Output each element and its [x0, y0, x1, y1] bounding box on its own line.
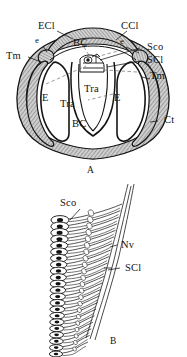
- figure-container: ECl CCl e e Tm Tm Sco SCl BC BC Tra Tra …: [0, 0, 187, 357]
- panel-letter-a: A: [87, 165, 94, 175]
- label-bc-top: BC: [73, 38, 87, 49]
- label-tm-right: Tm: [150, 71, 165, 82]
- label-e-chamber-left: E: [42, 93, 49, 104]
- label-scl: SCl: [147, 55, 163, 66]
- label-bc-bottom: BC: [72, 119, 86, 130]
- scolopidia-chain: [49, 204, 122, 357]
- panel-b-drawing: [0, 178, 187, 357]
- label-tra-left: Tra: [60, 99, 75, 110]
- label-e-right: e: [120, 37, 124, 46]
- label-tra-right: Tra: [84, 84, 99, 95]
- label-b-nv: Nv: [121, 240, 134, 251]
- panel-letter-b: B: [110, 336, 117, 346]
- label-e-left: e: [35, 36, 39, 45]
- label-sco: Sco: [147, 42, 163, 53]
- panel-a: ECl CCl e e Tm Tm Sco SCl BC BC Tra Tra …: [0, 0, 187, 180]
- label-ct: Ct: [164, 115, 174, 126]
- label-b-sco: Sco: [60, 198, 76, 209]
- panel-b: Sco Nv SCl B: [0, 178, 187, 357]
- label-e-chamber-right: E: [114, 93, 121, 104]
- label-tm-left: Tm: [6, 51, 21, 62]
- label-ccl: CCl: [121, 21, 139, 32]
- label-ecl: ECl: [38, 21, 55, 32]
- label-b-scl: SCl: [125, 263, 141, 274]
